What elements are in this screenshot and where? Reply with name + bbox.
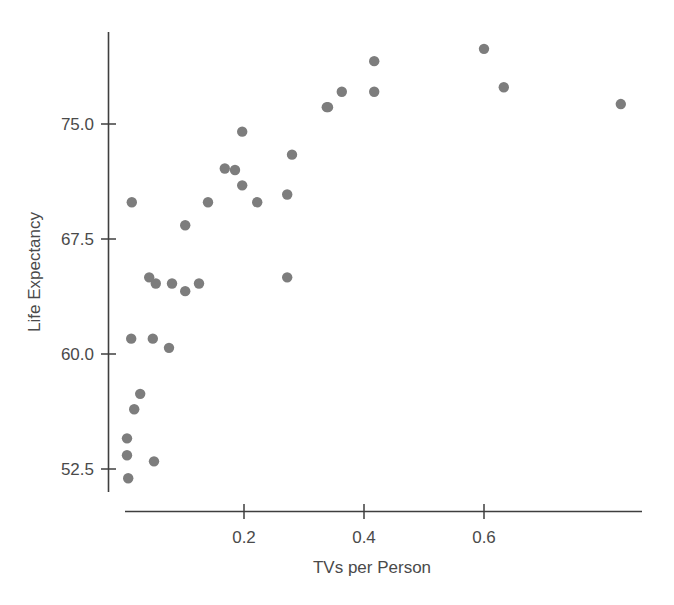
data-point (282, 272, 292, 282)
x-axis-title: TVs per Person (313, 558, 431, 577)
data-point (369, 87, 379, 97)
plot-canvas: 52.560.067.575.0 0.20.40.6 TVs per Perso… (0, 0, 674, 605)
data-point (323, 102, 333, 112)
data-point (164, 343, 174, 353)
data-point (123, 473, 133, 483)
x-tick-label: 0.4 (352, 528, 376, 547)
data-point (499, 82, 509, 92)
data-point (149, 456, 159, 466)
data-point (337, 87, 347, 97)
data-point (122, 450, 132, 460)
data-point (220, 163, 230, 173)
data-point (180, 220, 190, 230)
y-tick-label: 60.0 (61, 345, 94, 364)
data-point (135, 389, 145, 399)
data-point (237, 180, 247, 190)
data-point (203, 197, 213, 207)
data-point (194, 278, 204, 288)
data-points-group (122, 44, 626, 484)
y-tick-label: 52.5 (61, 460, 94, 479)
data-point (369, 56, 379, 66)
data-point (129, 404, 139, 414)
data-point (148, 333, 158, 343)
x-tick-label: 0.6 (472, 528, 496, 547)
data-point (616, 99, 626, 109)
data-point (122, 433, 132, 443)
data-point (151, 278, 161, 288)
x-tick-label: 0.2 (232, 528, 256, 547)
data-point (167, 278, 177, 288)
y-tick-label: 75.0 (61, 115, 94, 134)
data-point (252, 197, 262, 207)
axes-group (109, 32, 643, 512)
data-point (287, 149, 297, 159)
data-point (127, 197, 137, 207)
y-tick-label: 67.5 (61, 230, 94, 249)
data-point (180, 286, 190, 296)
scatter-plot-figure: 52.560.067.575.0 0.20.40.6 TVs per Perso… (0, 0, 674, 605)
x-axis-ticks: 0.20.40.6 (232, 504, 496, 547)
data-point (479, 44, 489, 54)
data-point (282, 189, 292, 199)
data-point (126, 333, 136, 343)
y-axis-title: Life Expectancy (25, 211, 44, 332)
data-point (230, 165, 240, 175)
data-point (237, 126, 247, 136)
